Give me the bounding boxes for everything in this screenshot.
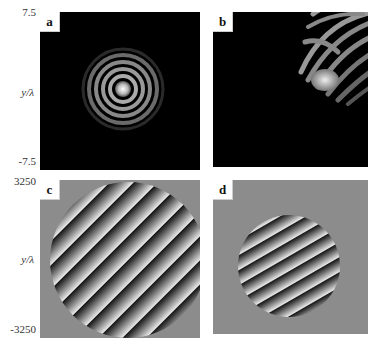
- panel-c-label: c: [40, 180, 60, 200]
- panel-d: d: [213, 180, 368, 334]
- panel-b: b: [213, 12, 368, 167]
- row2-ylabel: y/λ: [4, 253, 34, 265]
- row1-ytick-bottom: -7.5: [0, 155, 36, 167]
- row1-ytick-top: 7.5: [0, 6, 36, 18]
- panel-c: c: [40, 180, 200, 338]
- row2-ytick-bottom: -3250: [0, 323, 36, 335]
- panel-b-label: b: [213, 12, 233, 32]
- aberrated-pattern-image: [213, 12, 368, 167]
- airy-rings-image: [40, 12, 200, 170]
- panel-a: a: [40, 12, 200, 170]
- row2-ytick-top: 3250: [0, 175, 36, 187]
- panel-d-label: d: [213, 180, 233, 200]
- linear-phase-fringes-image: [40, 180, 200, 338]
- row1-ylabel: y/λ: [4, 86, 34, 98]
- panel-a-label: a: [40, 12, 60, 32]
- curved-phase-fringes-image: [213, 180, 368, 334]
